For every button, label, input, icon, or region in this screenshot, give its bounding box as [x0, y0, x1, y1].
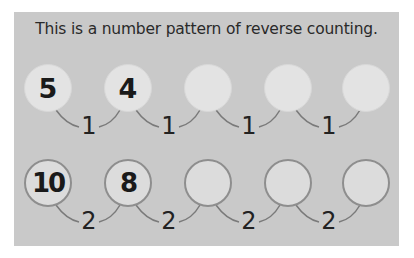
number-circle: 10 — [24, 159, 72, 207]
number-circle: 4 — [104, 64, 152, 112]
number-circle: 5 — [24, 64, 72, 112]
blank-circle[interactable] — [264, 64, 312, 112]
difference-label: 2 — [159, 207, 179, 235]
difference-label: 1 — [79, 112, 99, 140]
difference-label: 1 — [159, 112, 179, 140]
blank-circle[interactable] — [342, 64, 390, 112]
connector-arcs — [14, 12, 399, 246]
blank-circle[interactable] — [184, 64, 232, 112]
difference-label: 2 — [319, 207, 339, 235]
difference-label: 1 — [319, 112, 339, 140]
blank-circle[interactable] — [184, 159, 232, 207]
blank-circle[interactable] — [264, 159, 312, 207]
difference-label: 2 — [239, 207, 259, 235]
difference-label: 2 — [79, 207, 99, 235]
blank-circle[interactable] — [342, 159, 390, 207]
difference-label: 1 — [239, 112, 259, 140]
worksheet-panel: This is a number pattern of reverse coun… — [14, 12, 399, 246]
number-circle: 8 — [104, 159, 152, 207]
